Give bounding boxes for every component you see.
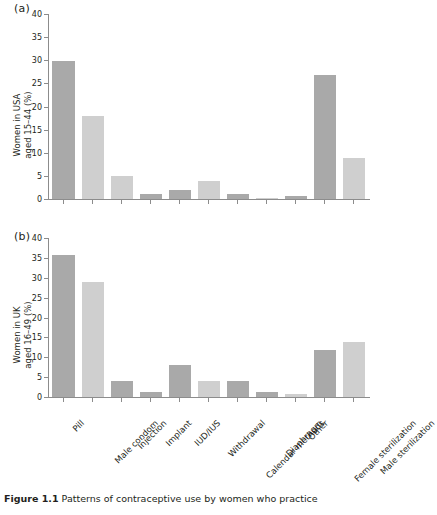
chart-panel-b: (b) Women in UK aged 16–49 (%) 051015202… xyxy=(0,228,382,418)
bar xyxy=(169,190,191,199)
x-axis-line-b xyxy=(48,397,370,398)
x-tick-mark xyxy=(266,200,267,204)
y-tick-label: 20 xyxy=(32,102,42,111)
y-axis-title-b: Women in UK aged 16–49 (%) xyxy=(12,270,33,400)
y-tick-label: 0 xyxy=(37,195,42,204)
x-axis-category-labels: PillMale condomInjectionImplantIUD/IUSWi… xyxy=(48,418,370,490)
y-tick-label: 20 xyxy=(32,313,42,322)
bar xyxy=(52,255,74,397)
figure-caption: Figure 1.1 Patterns of contraceptive use… xyxy=(4,492,380,505)
x-tick-mark xyxy=(179,200,180,204)
y-tick-label: 25 xyxy=(32,79,42,88)
y-tick-label: 0 xyxy=(37,393,42,402)
y-tick-label: 35 xyxy=(32,33,42,42)
figure-caption-number: Figure 1.1 xyxy=(4,493,59,504)
bar xyxy=(314,75,336,199)
y-tick-label: 30 xyxy=(32,56,42,65)
y-tick-mark xyxy=(44,238,48,239)
x-tick-mark xyxy=(208,200,209,204)
bar xyxy=(169,365,191,397)
y-axis-title-a-line1: Women in USA xyxy=(12,60,23,190)
bar xyxy=(285,394,307,397)
bar xyxy=(314,350,336,397)
x-tick-mark xyxy=(324,398,325,402)
y-tick-mark xyxy=(44,130,48,131)
x-tick-mark xyxy=(353,200,354,204)
x-tick-mark xyxy=(121,398,122,402)
x-tick-mark xyxy=(150,398,151,402)
y-tick-label: 30 xyxy=(32,273,42,282)
y-tick-label: 35 xyxy=(32,253,42,262)
figure-caption-text: Patterns of contraceptive use by women w… xyxy=(59,493,318,504)
x-axis-label-other: Other xyxy=(306,418,330,442)
x-tick-mark xyxy=(92,200,93,204)
y-tick-mark xyxy=(44,107,48,108)
y-tick-mark xyxy=(44,298,48,299)
bar xyxy=(256,392,278,397)
x-tick-mark xyxy=(237,200,238,204)
x-tick-mark xyxy=(295,398,296,402)
plot-area-a: 0510152025303540 xyxy=(48,14,370,200)
y-axis-title-b-line1: Women in UK xyxy=(12,270,23,400)
bar xyxy=(227,194,249,199)
x-tick-mark xyxy=(237,398,238,402)
y-tick-label: 15 xyxy=(32,333,42,342)
x-tick-mark xyxy=(63,398,64,402)
x-tick-mark xyxy=(324,200,325,204)
bar xyxy=(111,176,133,199)
y-tick-mark xyxy=(44,318,48,319)
y-tick-mark xyxy=(44,397,48,398)
x-tick-mark xyxy=(150,200,151,204)
y-axis-title-a: Women in USA aged 15–44 (%) xyxy=(12,60,33,190)
y-tick-mark xyxy=(44,14,48,15)
x-tick-mark xyxy=(63,200,64,204)
y-tick-label: 5 xyxy=(37,373,42,382)
bar xyxy=(198,181,220,199)
bar-group-b xyxy=(49,238,370,397)
bar xyxy=(343,342,365,397)
bar xyxy=(140,392,162,397)
x-tick-mark xyxy=(266,398,267,402)
y-tick-label: 40 xyxy=(32,10,42,19)
bar xyxy=(198,381,220,397)
bar xyxy=(140,194,162,199)
x-tick-mark xyxy=(295,200,296,204)
bar xyxy=(82,116,104,199)
x-axis-label-iud-ius: IUD/IUS xyxy=(192,418,222,448)
plot-area-b: 0510152025303540 xyxy=(48,238,370,398)
panel-label-b: (b) xyxy=(14,230,30,243)
bar xyxy=(256,198,278,199)
y-tick-mark xyxy=(44,278,48,279)
x-tick-mark xyxy=(208,398,209,402)
panel-label-a: (a) xyxy=(14,2,30,15)
x-tick-mark xyxy=(179,398,180,402)
y-tick-mark xyxy=(44,258,48,259)
y-tick-mark xyxy=(44,37,48,38)
y-tick-mark xyxy=(44,176,48,177)
y-tick-mark xyxy=(44,153,48,154)
y-tick-label: 10 xyxy=(32,353,42,362)
y-tick-mark xyxy=(44,357,48,358)
x-axis-label-withdrawal: Withdrawal xyxy=(226,418,267,459)
y-tick-mark xyxy=(44,377,48,378)
y-tick-label: 40 xyxy=(32,234,42,243)
bar xyxy=(227,381,249,397)
chart-panel-a: (a) Women in USA aged 15–44 (%) 05101520… xyxy=(0,0,382,222)
bar xyxy=(82,282,104,397)
y-tick-mark xyxy=(44,83,48,84)
bar xyxy=(285,196,307,199)
y-tick-mark xyxy=(44,199,48,200)
y-tick-label: 25 xyxy=(32,293,42,302)
x-axis-line-a xyxy=(48,199,370,200)
y-tick-label: 5 xyxy=(37,171,42,180)
x-tick-mark xyxy=(121,200,122,204)
x-axis-label-implant: Implant xyxy=(163,418,193,448)
bar xyxy=(111,381,133,397)
y-tick-mark xyxy=(44,337,48,338)
bar xyxy=(343,158,365,199)
x-tick-mark xyxy=(92,398,93,402)
x-axis-label-pill: Pill xyxy=(70,418,86,434)
y-tick-mark xyxy=(44,60,48,61)
y-tick-label: 10 xyxy=(32,148,42,157)
bar xyxy=(52,61,74,199)
